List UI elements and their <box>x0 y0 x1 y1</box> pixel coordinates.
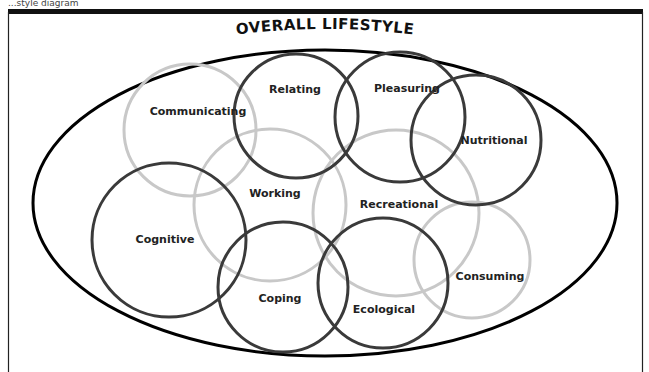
consuming-label: Consuming <box>456 270 525 283</box>
cognitive-label: Cognitive <box>136 233 195 246</box>
diagram-title: OVERALL LIFESTYLE <box>235 15 415 38</box>
communicating-label: Communicating <box>150 105 247 118</box>
domain-pleasuring <box>335 52 465 182</box>
domain-relating <box>234 54 358 178</box>
consuming-circle <box>414 202 530 318</box>
pleasuring-circle <box>335 52 465 182</box>
relating-circle <box>234 54 358 178</box>
caption-text: ...style diagram <box>8 0 78 8</box>
domain-consuming <box>414 202 530 318</box>
coping-circle <box>218 222 348 352</box>
domain-coping <box>218 222 348 352</box>
frame-top-border <box>8 9 643 14</box>
domain-ecological <box>318 218 448 348</box>
pleasuring-label: Pleasuring <box>374 82 440 95</box>
nutritional-label: Nutritional <box>460 134 527 147</box>
relating-label: Relating <box>269 83 321 96</box>
ecological-label: Ecological <box>353 303 415 316</box>
recreational-label: Recreational <box>360 198 438 211</box>
coping-label: Coping <box>259 292 302 305</box>
lifestyle-venn-diagram: ...style diagram OVERALL LIFESTYLE <box>0 0 649 372</box>
working-label: Working <box>249 187 301 200</box>
ecological-circle <box>318 218 448 348</box>
diagram-title-text: OVERALL LIFESTYLE <box>235 15 415 38</box>
